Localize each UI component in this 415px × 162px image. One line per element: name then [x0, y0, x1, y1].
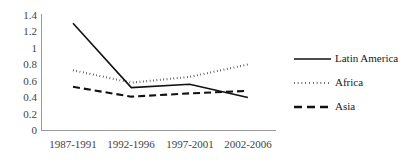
y-tick-label: 1	[32, 42, 38, 54]
series-group	[73, 23, 248, 97]
legend-item-asia[interactable]: Asia	[294, 100, 355, 112]
legend-item-africa[interactable]: Africa	[294, 76, 363, 88]
legend-label: Africa	[335, 76, 363, 88]
y-tick-label: 0.8	[23, 58, 37, 70]
series-line-asia	[73, 87, 248, 97]
x-tick-label: 1992-1996	[107, 138, 155, 150]
legend-item-latin-america[interactable]: Latin America	[294, 52, 398, 64]
y-tick-label: 0.6	[23, 75, 37, 87]
y-axis-tick-labels: 1.4 1.2 1 0.8 0.6 0.4 0.2 0	[23, 9, 37, 136]
legend-label: Latin America	[335, 52, 398, 64]
x-tick-label: 1987-1991	[49, 138, 97, 150]
y-tick-label: 1.2	[23, 25, 37, 37]
series-line-latin-america	[73, 23, 248, 97]
y-tick-label: 0.2	[23, 108, 37, 120]
chart-canvas: 1.4 1.2 1 0.8 0.6 0.4 0.2 0 1987-1991 19…	[0, 0, 415, 162]
x-tick-label: 2002-2006	[224, 138, 272, 150]
line-chart: 1.4 1.2 1 0.8 0.6 0.4 0.2 0 1987-1991 19…	[0, 0, 415, 162]
x-tick-label: 1997-2001	[166, 138, 214, 150]
y-tick-label: 0	[32, 124, 38, 136]
legend-label: Asia	[335, 100, 355, 112]
series-line-africa	[73, 65, 248, 83]
y-tick-label: 0.4	[23, 91, 37, 103]
x-axis-tick-labels: 1987-1991 1992-1996 1997-2001 2002-2006	[49, 138, 272, 150]
legend: Latin America Africa Asia	[294, 52, 398, 112]
y-tick-label: 1.4	[23, 9, 37, 21]
